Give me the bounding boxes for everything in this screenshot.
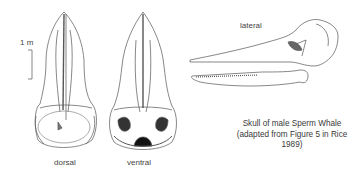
ventral-label: ventral [127, 158, 151, 167]
caption-line-1: Skull of male Sperm Whale [232, 119, 352, 130]
figure-caption: Skull of male Sperm Whale (adapted from … [232, 119, 352, 151]
caption-line-2: (adapted from Figure 5 in Rice 1989) [232, 130, 352, 151]
dorsal-skull [35, 12, 96, 148]
lateral-label: lateral [240, 21, 262, 30]
dorsal-label: dorsal [54, 158, 76, 167]
lateral-skull [190, 19, 338, 86]
ventral-skull [110, 12, 177, 150]
scale-label: 1 m [20, 38, 33, 47]
lower-jaw [191, 70, 308, 86]
scale-bar [28, 50, 32, 79]
